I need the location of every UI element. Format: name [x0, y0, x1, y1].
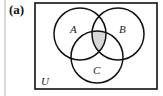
venn-diagram: A B C U: [0, 0, 163, 96]
set-label-c: C: [93, 64, 101, 76]
set-label-a: A: [69, 23, 77, 35]
universe-label: U: [41, 75, 50, 87]
set-label-b: B: [119, 23, 126, 35]
